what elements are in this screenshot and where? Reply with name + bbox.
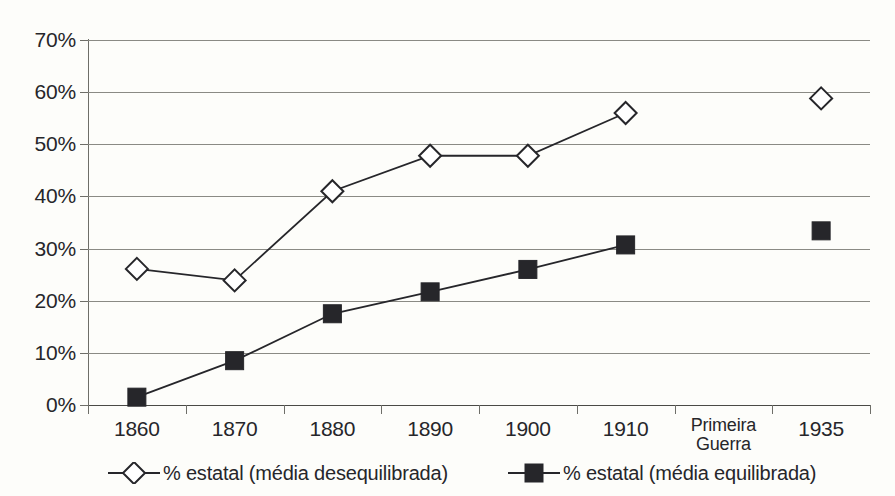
x-axis-tick	[88, 405, 89, 414]
chart-legend: % estatal (média desequilibrada)% estata…	[0, 458, 895, 496]
y-axis-tick	[80, 353, 88, 354]
x-axis-category-label: 1910	[603, 418, 649, 440]
y-axis-tick	[80, 405, 88, 406]
x-axis-category-label: 1880	[309, 418, 355, 440]
y-axis-tick-label: 30%	[6, 237, 76, 261]
gridline-30	[88, 249, 870, 250]
chart-container: 70%60%50%40%30%20%10%0% 1860187018801890…	[0, 0, 895, 496]
y-axis-tick	[80, 301, 88, 302]
y-axis-tick-label: 20%	[6, 289, 76, 313]
legend-marker-open-diamond-icon	[108, 462, 160, 484]
y-axis-tick	[80, 196, 88, 197]
x-axis-category-label: 1935	[798, 418, 844, 440]
y-axis-tick-label: 50%	[6, 132, 76, 156]
legend-entry-2[interactable]: % estatal (média equilibrada)	[508, 458, 816, 488]
x-axis-category-label: 1900	[505, 418, 551, 440]
y-axis-labels: 70%60%50%40%30%20%10%0%	[0, 0, 76, 496]
gridline-10	[88, 353, 870, 354]
gridline-60	[88, 92, 870, 93]
x-axis-tick	[186, 405, 187, 414]
x-axis-tick	[870, 405, 871, 414]
y-axis-tick-label: 0%	[6, 393, 76, 417]
y-axis-tick	[80, 249, 88, 250]
legend-marker-filled-square-icon	[508, 462, 560, 484]
gridline-40	[88, 196, 870, 197]
y-axis-tick-label: 40%	[6, 184, 76, 208]
x-axis-tick	[675, 405, 676, 414]
x-axis-tick	[381, 405, 382, 414]
y-axis-tick-label: 10%	[6, 341, 76, 365]
gridline-20	[88, 301, 870, 302]
plot-area	[88, 40, 870, 405]
x-axis-category-label: Primeira Guerra	[691, 416, 756, 454]
x-axis-tick	[577, 405, 578, 414]
y-axis-tick-label: 70%	[6, 28, 76, 52]
x-axis-tick	[479, 405, 480, 414]
x-axis-category-label: 1860	[114, 418, 160, 440]
gridline-70	[88, 40, 870, 41]
legend-entry-1[interactable]: % estatal (média desequilibrada)	[108, 458, 448, 488]
y-axis-tick	[80, 144, 88, 145]
data-point-marker-filled-square	[525, 464, 543, 482]
y-axis-tick	[80, 40, 88, 41]
x-axis-tick	[772, 405, 773, 414]
y-axis-tick	[80, 92, 88, 93]
gridline-50	[88, 144, 870, 145]
x-axis-category-label: 1870	[212, 418, 258, 440]
x-axis-category-label: 1890	[407, 418, 453, 440]
legend-label: % estatal (média desequilibrada)	[163, 462, 448, 485]
data-point-marker-open-diamond	[123, 462, 145, 484]
legend-label: % estatal (média equilibrada)	[563, 462, 816, 485]
y-axis-tick-label: 60%	[6, 80, 76, 104]
x-axis-tick	[284, 405, 285, 414]
